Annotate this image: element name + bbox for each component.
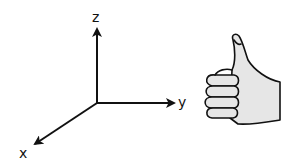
x-axis <box>35 103 97 144</box>
z-axis-label: z <box>92 9 99 25</box>
x-axis-label: x <box>19 145 27 161</box>
y-axis-label: y <box>178 94 186 110</box>
thumbs-up-hand-icon <box>205 34 280 124</box>
axes-diagram: z y x <box>0 0 292 168</box>
